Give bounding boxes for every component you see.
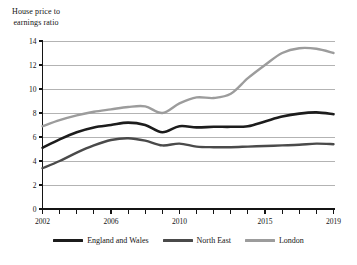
legend-swatch-icon [53, 239, 83, 242]
series-line-north-east [43, 138, 334, 168]
legend-swatch-icon [245, 239, 275, 242]
data-series-lines [43, 48, 334, 168]
legend-item[interactable]: North East [163, 236, 231, 245]
svg-text:2019: 2019 [326, 217, 341, 226]
legend-item[interactable]: London [245, 236, 304, 245]
legend-swatch-icon [163, 239, 193, 242]
svg-text:2: 2 [33, 181, 37, 190]
svg-text:4: 4 [33, 157, 37, 166]
gridlines [43, 41, 335, 209]
chart-plot-area: 02468101214 20022006201020152019 [0, 0, 357, 265]
x-tick-labels: 20022006201020152019 [35, 217, 341, 226]
svg-text:8: 8 [33, 109, 37, 118]
legend-item[interactable]: England and Wales [53, 236, 148, 245]
svg-text:14: 14 [29, 37, 37, 46]
chart-legend: England and WalesNorth EastLondon [0, 236, 357, 245]
y-axis [39, 41, 43, 209]
legend-item-label: North East [197, 236, 231, 245]
chart-container: House price to earnings ratio 0246810121… [0, 0, 357, 265]
legend-item-label: London [279, 236, 304, 245]
svg-text:2010: 2010 [172, 217, 187, 226]
svg-text:6: 6 [33, 133, 37, 142]
svg-text:2002: 2002 [35, 217, 50, 226]
svg-text:2006: 2006 [103, 217, 118, 226]
svg-text:0: 0 [33, 205, 37, 214]
y-tick-labels: 02468101214 [29, 37, 37, 214]
x-axis [43, 209, 335, 214]
series-line-england-and-wales [43, 112, 334, 147]
svg-text:12: 12 [29, 61, 37, 70]
svg-text:2015: 2015 [258, 217, 273, 226]
svg-text:10: 10 [29, 85, 37, 94]
legend-item-label: England and Wales [87, 236, 148, 245]
